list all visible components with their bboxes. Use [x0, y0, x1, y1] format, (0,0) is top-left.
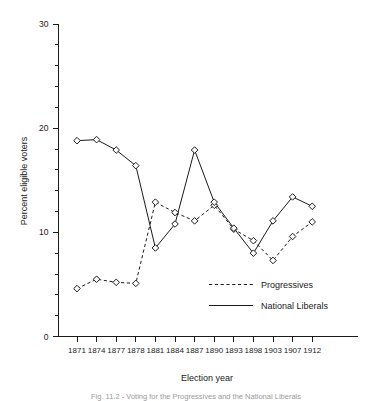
x-tick-label: 1874	[88, 346, 106, 355]
data-point-marker	[113, 279, 120, 286]
x-tick-label: 1881	[147, 346, 165, 355]
x-tick-label: 1912	[303, 346, 321, 355]
data-point-marker	[93, 136, 100, 143]
series-line-national-liberals	[77, 140, 312, 254]
x-tick-label: 1890	[205, 346, 223, 355]
x-tick-label: 1898	[245, 346, 263, 355]
x-tick-label: 1903	[264, 346, 282, 355]
data-point-marker	[191, 147, 198, 154]
x-tick-label: 1877	[107, 346, 125, 355]
series-markers	[74, 136, 316, 292]
y-tick-label: 0	[44, 332, 49, 342]
y-axis-minor-ticks	[55, 45, 59, 316]
data-point-marker	[74, 137, 81, 144]
series-lines	[77, 140, 312, 289]
chart-figure: 0102030 18711874187718781881188418871890…	[0, 0, 372, 401]
figure-caption: Fig. 11.2 - Voting for the Progressives …	[91, 392, 301, 401]
x-axis-tick-labels: 1871187418771878188118841887189018931898…	[68, 346, 322, 355]
x-tick-label: 1884	[166, 346, 184, 355]
legend-label-progressives: Progressives	[261, 280, 314, 290]
data-point-marker	[250, 237, 257, 244]
x-tick-label: 1907	[284, 346, 302, 355]
x-tick-label: 1887	[186, 346, 204, 355]
line-chart-canvas: 0102030 18711874187718781881188418871890…	[0, 0, 372, 401]
series-line-progressives	[77, 202, 312, 288]
data-point-marker	[74, 285, 81, 292]
x-axis-ticks	[77, 337, 312, 342]
y-axis-title: Percent eligible voters	[19, 136, 29, 225]
data-point-marker	[309, 219, 316, 226]
y-tick-label: 30	[39, 19, 49, 29]
x-axis-title: Election year	[181, 373, 233, 383]
y-tick-label: 20	[39, 123, 49, 133]
x-tick-label: 1878	[127, 346, 145, 355]
data-point-marker	[152, 199, 159, 206]
x-tick-label: 1871	[68, 346, 86, 355]
x-tick-label: 1893	[225, 346, 243, 355]
data-point-marker	[93, 276, 100, 283]
y-tick-label: 10	[39, 227, 49, 237]
y-axis-tick-labels: 0102030	[39, 19, 49, 342]
data-point-marker	[309, 203, 316, 210]
y-axis-major-ticks	[53, 24, 59, 337]
data-point-marker	[289, 233, 296, 240]
chart-legend: Progressives National Liberals	[209, 280, 329, 311]
legend-label-national-liberals: National Liberals	[261, 301, 329, 311]
data-point-marker	[133, 280, 140, 287]
